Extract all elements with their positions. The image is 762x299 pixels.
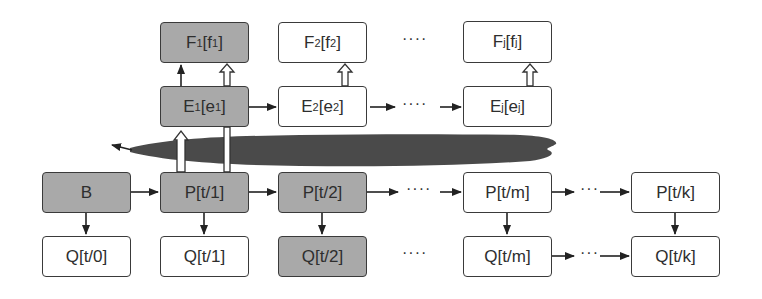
node-e1-letter: E bbox=[183, 97, 194, 117]
node-b: B bbox=[42, 172, 131, 213]
node-q2: Q[t/2] bbox=[278, 236, 367, 277]
node-ej-sub: j bbox=[501, 101, 503, 113]
hollow-arrow-e2-f2 bbox=[338, 64, 352, 86]
node-fj-letter: F bbox=[493, 32, 503, 52]
node-f2-br-sub: 2 bbox=[330, 37, 336, 49]
hollow-arrow-e1-f1 bbox=[220, 64, 234, 86]
node-e1-sub: 1 bbox=[195, 101, 201, 113]
node-f1: F1[f1] bbox=[160, 22, 249, 63]
node-ej-br: e bbox=[508, 97, 517, 117]
node-f2-sub: 2 bbox=[314, 37, 320, 49]
node-qm: Q[t/m] bbox=[463, 236, 552, 277]
node-fj: Fj[fj] bbox=[463, 21, 552, 63]
node-ej: Ej[ej] bbox=[463, 86, 552, 127]
node-fj-sub: j bbox=[503, 36, 505, 48]
node-ej-br-sub: j bbox=[518, 101, 520, 113]
node-e2-letter: E bbox=[301, 97, 312, 117]
node-f2: F2[f2] bbox=[278, 22, 367, 63]
node-f1-br-sub: 1 bbox=[212, 37, 218, 49]
node-qk: Q[t/k] bbox=[631, 236, 720, 277]
node-pm: P[t/m] bbox=[463, 172, 552, 213]
node-e2-sub: 2 bbox=[313, 101, 319, 113]
node-q0: Q[t/0] bbox=[42, 236, 131, 277]
node-e1-br: e bbox=[205, 97, 214, 117]
node-e2: E2[e2] bbox=[278, 86, 367, 127]
ellipsis-p-row-b: ··· bbox=[580, 180, 599, 198]
node-q1: Q[t/1] bbox=[160, 236, 249, 277]
hollow-arrow-ej-fj bbox=[523, 64, 537, 86]
node-fj-br-sub: j bbox=[515, 36, 517, 48]
node-p1: P[t/1] bbox=[160, 172, 249, 213]
node-p2: P[t/2] bbox=[278, 172, 367, 213]
node-e1: E1[e1] bbox=[160, 86, 249, 127]
ellipsis-q-row-a: ···· bbox=[402, 244, 427, 262]
diagram-canvas: F1[f1] F2[f2] ···· Fj[fj] E1[e1] E2[e2] … bbox=[0, 0, 762, 299]
node-e2-br-sub: 2 bbox=[333, 101, 339, 113]
ellipsis-q-row-b: ··· bbox=[580, 244, 599, 262]
ellipsis-f-row: ···· bbox=[402, 30, 427, 48]
node-e1-br-sub: 1 bbox=[215, 101, 221, 113]
cloud-arrow-left bbox=[112, 145, 132, 150]
node-f2-letter: F bbox=[304, 33, 314, 53]
ellipsis-p-row-a: ···· bbox=[406, 180, 431, 198]
ellipsis-e-row: ···· bbox=[402, 95, 427, 113]
node-f1-letter: F bbox=[186, 33, 196, 53]
node-ej-letter: E bbox=[490, 97, 501, 117]
node-f1-sub: 1 bbox=[196, 37, 202, 49]
node-pk: P[t/k] bbox=[631, 172, 720, 213]
hollow-bar-p1-e1 bbox=[224, 127, 230, 172]
node-e2-br: e bbox=[323, 97, 332, 117]
